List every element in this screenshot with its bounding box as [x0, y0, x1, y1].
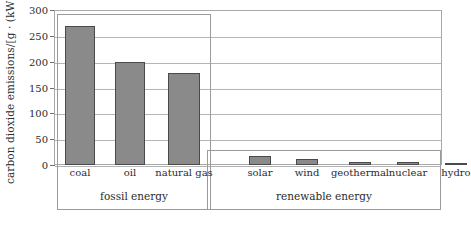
category-label-wind: wind — [295, 167, 320, 178]
group-caption-fossil-energy: fossil energy — [100, 190, 168, 202]
bar-wind — [296, 159, 318, 165]
bar-series — [54, 10, 442, 165]
y-axis-tick-label: 100 — [29, 108, 48, 119]
y-axis-title-main: carbon dioxide emissions/[g · (kW · h) — [4, 0, 16, 184]
y-axis-tick-label: 200 — [29, 56, 48, 67]
bar-natural-gas — [168, 73, 200, 165]
y-axis-tick-label: 250 — [29, 30, 48, 41]
category-label-oil: oil — [124, 167, 136, 178]
category-label-geothermal: geothermal — [331, 167, 389, 178]
bar-hydro — [445, 163, 467, 165]
y-axis-title-text: carbon dioxide emissions/[g · (kW · h)-1… — [2, 0, 16, 184]
category-label-hydro: hydro — [441, 167, 470, 178]
bar-oil — [115, 62, 145, 165]
bar-nuclear — [397, 162, 419, 165]
category-label-solar: solar — [247, 167, 272, 178]
category-label-coal: coal — [70, 167, 91, 178]
y-axis-tick-label: 50 — [35, 134, 48, 145]
y-axis-tick-label: 300 — [29, 5, 48, 16]
y-axis-tick-labels: 050100150200250300 — [20, 0, 48, 190]
y-axis-tick-label: 150 — [29, 82, 48, 93]
bar-solar — [249, 156, 271, 165]
y-axis-tick-label: 0 — [42, 160, 48, 171]
bar-coal — [65, 26, 95, 166]
category-label-natural-gas: natural gas — [155, 167, 212, 178]
y-axis-title: carbon dioxide emissions/[g · (kW · h)-1… — [0, 0, 22, 190]
bar-geothermal — [349, 162, 371, 165]
group-caption-renewable-energy: renewable energy — [276, 190, 372, 202]
category-label-nuclear: nuclear — [389, 167, 427, 178]
